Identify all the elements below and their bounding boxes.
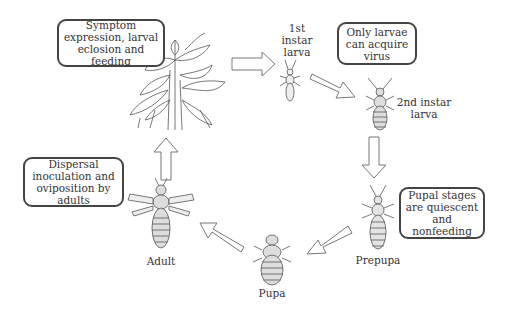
pupa-illustration xyxy=(253,235,291,285)
callout-plant-symptoms: Symptom expression, larval eclosion and … xyxy=(57,19,165,67)
stage-label-pupa: Pupa xyxy=(252,287,292,299)
stage-label-prepupa: Prepupa xyxy=(353,254,403,266)
second-instar-larva-illustration xyxy=(366,78,394,130)
callout-pupal-stages: Pupal stages are quiescent and nonfeedin… xyxy=(399,187,485,239)
stage-label-first-instar: 1st instar larva xyxy=(272,22,322,58)
arrow-down-icon xyxy=(362,137,386,178)
arrow-diagonal-icon xyxy=(200,223,244,252)
arrow-right-icon xyxy=(232,52,275,76)
arrow-diagonal-icon xyxy=(307,226,352,254)
adult-thrips-illustration xyxy=(128,178,194,248)
arrow-diagonal-icon xyxy=(310,74,355,98)
callout-larvae-acquire-virus: Only larvae can acquire virus xyxy=(337,22,417,65)
arrow-up-icon xyxy=(154,138,178,180)
stage-label-adult: Adult xyxy=(141,255,181,267)
first-instar-larva-illustration xyxy=(280,60,300,101)
arrows xyxy=(154,52,386,254)
prepupa-illustration xyxy=(362,185,394,249)
stage-label-second-instar: 2nd instar larva xyxy=(396,96,452,120)
callout-adult-dispersal: Dispersal inoculation and oviposition by… xyxy=(23,157,124,207)
